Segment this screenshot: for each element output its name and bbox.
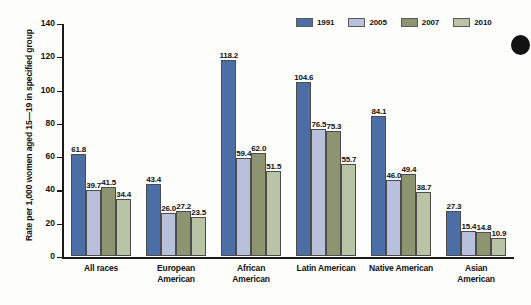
bar-2007-european-american: 27.2 (176, 211, 191, 256)
bar-2007-asian-american: 14.8 (476, 232, 491, 257)
plot-area: 020406080100120140 61.839.741.534.443.42… (62, 24, 514, 258)
x-label-line: African (214, 263, 289, 274)
bar-1991-african-american: 118.2 (221, 60, 236, 257)
bar-2010-asian-american: 10.9 (491, 238, 506, 256)
y-tick-label-120: 120 (41, 51, 55, 61)
bar-2010-european-american: 23.5 (191, 217, 206, 256)
bar-value-label: 61.8 (71, 145, 86, 154)
bar-2005-asian-american: 15.4 (461, 231, 476, 257)
bar-value-label: 75.3 (326, 122, 341, 131)
bar-2010-latin-american: 55.7 (341, 164, 356, 257)
bar-1991-latin-american: 104.6 (296, 82, 311, 256)
page-edge-mark (511, 35, 530, 55)
x-label-african-american: AfricanAmerican (214, 263, 289, 285)
bar-value-label: 27.3 (447, 202, 462, 211)
bar-2005-native-american: 46.0 (386, 180, 401, 257)
bar-2005-latin-american: 76.5 (311, 129, 326, 256)
x-label-asian-american: AsianAmerican (439, 263, 514, 285)
x-label-line: American (139, 274, 214, 285)
bar-group-african-american: 118.259.462.051.5 (214, 24, 289, 256)
y-tick-label-0: 0 (50, 251, 55, 261)
y-tick-mark-0 (57, 257, 62, 258)
y-tick-mark-20 (57, 224, 62, 225)
bar-2007-native-american: 49.4 (401, 174, 416, 256)
bar-group-native-american: 84.146.049.438.7 (364, 24, 439, 256)
bar-2007-all-races: 41.5 (101, 187, 116, 256)
y-tick-label-140: 140 (41, 18, 55, 28)
bar-value-label: 51.5 (266, 162, 281, 171)
bar-value-label: 104.6 (294, 73, 313, 82)
bar-2007-african-american: 62.0 (251, 153, 266, 256)
y-tick-label-100: 100 (41, 85, 55, 95)
bar-value-label: 26.0 (161, 204, 176, 213)
x-label-latin-american: Latin American (289, 263, 364, 285)
bar-value-label: 62.0 (251, 144, 266, 153)
bar-value-label: 118.2 (219, 51, 238, 60)
x-label-native-american: Native American (364, 263, 439, 285)
bar-groups: 61.839.741.534.443.426.027.223.5118.259.… (64, 24, 514, 256)
bar-value-label: 49.4 (401, 165, 416, 174)
bar-2010-african-american: 51.5 (266, 171, 281, 257)
bar-2010-native-american: 38.7 (416, 192, 431, 256)
bar-2005-all-races: 39.7 (86, 190, 101, 256)
bar-value-label: 41.5 (101, 178, 116, 187)
bar-2005-european-american: 26.0 (161, 213, 176, 256)
bar-value-label: 59.4 (236, 149, 251, 158)
bar-value-label: 38.7 (416, 183, 431, 192)
y-tick-mark-140 (57, 24, 62, 25)
bar-1991-asian-american: 27.3 (446, 211, 461, 256)
x-label-line: American (439, 274, 514, 285)
bar-1991-european-american: 43.4 (146, 184, 161, 256)
bar-value-label: 27.2 (176, 202, 191, 211)
y-tick-mark-40 (57, 190, 62, 191)
x-label-line: Asian (439, 263, 514, 274)
bar-2005-african-american: 59.4 (236, 158, 251, 257)
bar-group-all-races: 61.839.741.534.4 (64, 24, 139, 256)
bar-value-label: 34.4 (116, 190, 131, 199)
bar-value-label: 10.9 (492, 229, 507, 238)
x-axis-line (62, 257, 514, 259)
y-tick-mark-60 (57, 157, 62, 158)
bar-group-latin-american: 104.676.575.355.7 (289, 24, 364, 256)
bar-group-european-american: 43.426.027.223.5 (139, 24, 214, 256)
bar-value-label: 76.5 (311, 120, 326, 129)
x-label-line: American (214, 274, 289, 285)
bar-1991-all-races: 61.8 (71, 154, 86, 257)
y-tick-label-60: 60 (46, 151, 55, 161)
y-tick-mark-120 (57, 57, 62, 58)
x-label-all-races: All races (64, 263, 139, 285)
y-tick-label-40: 40 (46, 184, 55, 194)
bar-2010-all-races: 34.4 (116, 199, 131, 256)
y-tick-label-80: 80 (46, 118, 55, 128)
x-axis-category-labels: All racesEuropeanAmericanAfricanAmerican… (64, 263, 514, 285)
y-tick-mark-80 (57, 124, 62, 125)
bar-2007-latin-american: 75.3 (326, 131, 341, 256)
x-label-line: Latin American (289, 263, 364, 274)
y-tick-label-20: 20 (46, 218, 55, 228)
x-label-line: All races (64, 263, 139, 274)
x-label-european-american: EuropeanAmerican (139, 263, 214, 285)
y-tick-mark-100 (57, 91, 62, 92)
bar-value-label: 23.5 (191, 208, 206, 217)
bar-value-label: 39.7 (86, 181, 101, 190)
bar-value-label: 43.4 (146, 175, 161, 184)
bar-1991-native-american: 84.1 (371, 116, 386, 256)
bar-value-label: 14.8 (477, 223, 492, 232)
bar-chart-figure: 1991200520072010 Rate per 1,000 women ag… (0, 0, 531, 305)
bar-value-label: 15.4 (462, 222, 477, 231)
y-axis-title: Rate per 1,000 women aged 15—19 in speci… (24, 10, 34, 260)
x-label-line: European (139, 263, 214, 274)
x-label-line: Native American (364, 263, 439, 274)
bar-value-label: 84.1 (371, 107, 386, 116)
bar-value-label: 55.7 (341, 155, 356, 164)
bar-value-label: 46.0 (386, 171, 401, 180)
bar-group-asian-american: 27.315.414.810.9 (439, 24, 514, 256)
